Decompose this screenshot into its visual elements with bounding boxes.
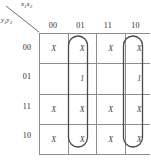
cell-r3-c0: X [40,124,69,154]
cell-r3-c1: X [68,124,97,154]
cell-r0-c1: X [68,34,97,64]
column-header-3: 10 [122,20,150,32]
table-row: X X X X [40,34,151,64]
row-header-0: 00 [16,33,38,62]
axis-corner-block: x1x2 y1y2 [1,1,41,33]
column-header-1: 01 [67,20,95,32]
row-header-1: 01 [16,62,38,91]
column-variable-label: x1x2 [21,1,32,9]
cell-r0-c3: X [125,34,150,64]
row-variable-sub2: 2 [10,20,13,25]
cell-r1-c2 [97,64,126,94]
karnaugh-map-figure: x1x2 y1y2 00 01 11 10 00 01 11 10 X X X … [0,0,150,166]
cell-r0-c0: X [40,34,69,64]
cell-r2-c0: X [40,94,69,124]
cell-r2-c1: X [68,94,97,124]
row-header-2: 11 [16,92,38,121]
cell-r1-c0 [40,64,69,94]
table-row: X X X X [40,124,151,154]
cell-r3-c2: X [97,124,126,154]
cell-r3-c3: X [125,124,150,154]
cell-r0-c2: X [97,34,126,64]
cell-r2-c3: X [125,94,150,124]
kmap-grid: X X X X 1 1 X X X X X X X X [39,33,149,150]
row-variable-label: y1y2 [1,17,12,25]
column-header-2: 11 [94,20,122,32]
cell-r2-c2: X [97,94,126,124]
table-row: X X X X [40,94,151,124]
column-header-0: 00 [39,20,67,32]
table-row: 1 1 [40,64,151,94]
column-variable-sub2: 2 [30,4,33,9]
cell-r1-c1: 1 [68,64,97,94]
cell-r1-c3: 1 [125,64,150,94]
row-header-3: 10 [16,121,38,150]
kmap-table: X X X X 1 1 X X X X X X X X [39,33,150,155]
